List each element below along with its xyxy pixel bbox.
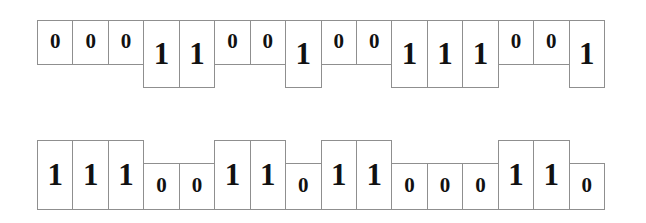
bit-digit: 1 xyxy=(189,38,205,69)
bit-digit: 0 xyxy=(85,31,96,52)
binary-row-bottom: 1 1 1 0 0 1 1 0 1 1 0 0 0 1 1 0 xyxy=(37,140,605,210)
bit-cell: 0 xyxy=(427,163,463,210)
bit-cell: 1 xyxy=(179,20,215,88)
bit-digit: 0 xyxy=(156,175,167,196)
bit-digit: 1 xyxy=(366,159,382,190)
bit-digit: 1 xyxy=(154,38,170,69)
bit-cell: 1 xyxy=(285,20,321,88)
bit-digit: 1 xyxy=(508,159,524,190)
bit-cell: 1 xyxy=(462,20,498,88)
bit-digit: 1 xyxy=(296,38,312,69)
binary-sequence-figure: 0 0 0 1 1 0 0 1 0 0 1 1 1 0 0 1 1 1 1 0 … xyxy=(0,0,646,223)
bit-cell: 0 xyxy=(462,163,498,210)
bit-digit: 0 xyxy=(333,31,344,52)
bit-digit: 0 xyxy=(298,175,309,196)
bit-digit: 1 xyxy=(579,38,595,69)
bit-cell: 1 xyxy=(72,140,108,210)
bit-digit: 1 xyxy=(260,159,276,190)
bit-cell: 0 xyxy=(108,20,144,65)
bit-digit: 1 xyxy=(402,38,418,69)
bit-digit: 1 xyxy=(437,38,453,69)
bit-digit: 1 xyxy=(83,159,99,190)
bit-digit: 1 xyxy=(118,159,134,190)
bit-cell: 0 xyxy=(72,20,108,65)
bit-digit: 1 xyxy=(47,159,63,190)
bit-cell: 0 xyxy=(143,163,179,210)
bit-digit: 0 xyxy=(404,175,415,196)
bit-digit: 1 xyxy=(544,159,560,190)
bit-cell: 1 xyxy=(108,140,144,210)
bit-cell: 1 xyxy=(569,20,605,88)
bit-cell: 1 xyxy=(356,140,392,210)
bit-digit: 0 xyxy=(263,31,274,52)
bit-cell: 0 xyxy=(391,163,427,210)
bit-cell: 0 xyxy=(321,20,357,65)
bit-digit: 0 xyxy=(546,31,557,52)
bit-digit: 0 xyxy=(511,31,522,52)
bit-digit: 1 xyxy=(225,159,241,190)
bit-cell: 0 xyxy=(285,163,321,210)
bit-digit: 0 xyxy=(121,31,132,52)
bit-cell: 0 xyxy=(214,20,250,65)
bit-cell: 1 xyxy=(391,20,427,88)
bit-digit: 0 xyxy=(50,31,61,52)
bit-cell: 0 xyxy=(498,20,534,65)
bit-digit: 1 xyxy=(331,159,347,190)
bit-cell: 1 xyxy=(427,20,463,88)
bit-digit: 0 xyxy=(192,175,203,196)
bit-cell: 1 xyxy=(250,140,286,210)
bit-cell: 1 xyxy=(498,140,534,210)
bit-cell: 1 xyxy=(214,140,250,210)
bit-cell: 0 xyxy=(179,163,215,210)
bit-digit: 0 xyxy=(227,31,238,52)
bit-cell: 1 xyxy=(143,20,179,88)
bit-cell: 0 xyxy=(569,163,605,210)
bit-digit: 0 xyxy=(440,175,451,196)
bit-cell: 1 xyxy=(321,140,357,210)
bit-cell: 0 xyxy=(356,20,392,65)
bit-digit: 0 xyxy=(475,175,486,196)
bit-digit: 0 xyxy=(582,175,593,196)
bit-cell: 1 xyxy=(533,140,569,210)
bit-cell: 1 xyxy=(37,140,73,210)
bit-digit: 1 xyxy=(473,38,489,69)
binary-row-top: 0 0 0 1 1 0 0 1 0 0 1 1 1 0 0 1 xyxy=(37,20,605,88)
bit-cell: 0 xyxy=(250,20,286,65)
bit-digit: 0 xyxy=(369,31,380,52)
bit-cell: 0 xyxy=(37,20,73,65)
bit-cell: 0 xyxy=(533,20,569,65)
